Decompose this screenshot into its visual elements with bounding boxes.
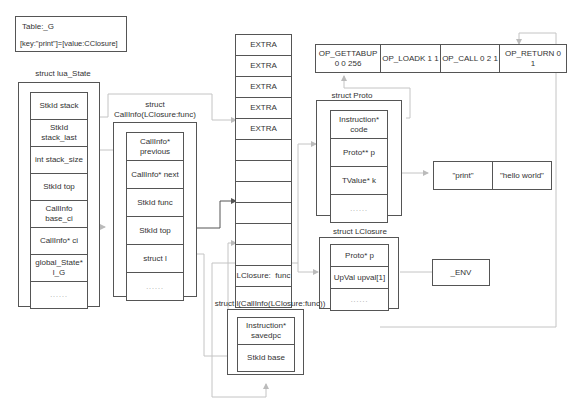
field-top: StkId top	[30, 173, 88, 201]
table-g-box: Table:_G [key:"print"]=[value:CClosure]	[15, 16, 127, 52]
field-func: StkId func	[126, 188, 184, 217]
proto-struct: Instruction* code Proto** p TValue* k ..…	[316, 100, 402, 216]
const-print: "print"	[433, 161, 493, 190]
field-ci: CallInfo* ci	[30, 227, 88, 255]
field-lclosure-more: ......	[330, 288, 389, 311]
field-code: Instruction* code	[330, 110, 388, 139]
table-g-entry: [key:"print"]=[value:CClosure]	[20, 39, 118, 48]
field-l-g: global_State* l_G	[30, 254, 88, 282]
field-base-ci: CallInfo base_ci	[30, 200, 88, 228]
stack-slot: EXTRA	[235, 97, 292, 119]
field-stack: StkId stack	[30, 92, 88, 120]
stack-slot	[235, 244, 292, 266]
field-savedpc: Instruction* savedpc	[237, 317, 295, 345]
lua-state-title: struct lua_State	[18, 69, 108, 78]
instruction-array: OP_GETTABUP 0 0 256 OP_LOADK 1 1 OP_CALL…	[315, 44, 567, 73]
lclosure-struct: Proto* p UpVal upval[1] ......	[319, 237, 399, 309]
constants-array: "print" "hello world"	[433, 161, 552, 190]
lua-state-fields: StkId stack StkId stack_last int stack_s…	[30, 92, 88, 309]
stack-slot: EXTRA	[235, 55, 292, 77]
field-lclosure-p: Proto* p	[330, 244, 389, 267]
stack-slot	[235, 139, 292, 161]
field-callinfo-more: ......	[126, 272, 184, 301]
table-g-title: Table:_G	[22, 22, 54, 31]
env-box: _ENV	[432, 259, 490, 286]
stack-slot	[235, 181, 292, 203]
lua-state-struct: StkId stack StkId stack_last int stack_s…	[18, 82, 100, 307]
field-base: StkId base	[237, 344, 295, 372]
callinfo-l-title: struct l(CallInfo(LClosure:func))	[210, 299, 330, 308]
field-previous: CallInfo* previous	[126, 132, 184, 161]
field-callinfo-top: StkId top	[126, 216, 184, 245]
callinfo-struct: CallInfo* previous CallInfo* next StkId …	[113, 122, 197, 297]
callinfo-title-line1: struct	[110, 100, 200, 109]
field-struct-l: struct l	[126, 244, 184, 273]
field-proto-more: ......	[330, 194, 388, 223]
stack-slot: EXTRA	[235, 34, 292, 56]
field-k: TValue* k	[330, 166, 388, 195]
stack-slot	[235, 160, 292, 182]
callinfo-l-struct: Instruction* savedpc StkId base	[227, 309, 304, 375]
field-proto-p: Proto** p	[330, 138, 388, 167]
instr-call: OP_CALL 0 2 1	[440, 44, 500, 73]
stack-slot	[235, 202, 292, 224]
field-stack-size: int stack_size	[30, 146, 88, 174]
lclosure-fields: Proto* p UpVal upval[1] ......	[330, 244, 389, 311]
field-more: ......	[30, 281, 88, 309]
callinfo-fields: CallInfo* previous CallInfo* next StkId …	[126, 132, 184, 301]
lua-stack: EXTRA EXTRA EXTRA EXTRA EXTRA LClosure: …	[235, 34, 292, 308]
callinfo-title-line2: CallInfo(LClosure:func)	[110, 110, 200, 119]
stack-slot: EXTRA	[235, 76, 292, 98]
field-stack-last: StkId stack_last	[30, 119, 88, 147]
callinfo-l-fields: Instruction* savedpc StkId base	[237, 317, 295, 372]
field-upval: UpVal upval[1]	[330, 266, 389, 289]
const-hello-world: "hello world"	[492, 161, 552, 190]
lclosure-title: struct LClosure	[320, 227, 400, 236]
field-next: CallInfo* next	[126, 160, 184, 189]
stack-slot	[235, 223, 292, 245]
proto-fields: Instruction* code Proto** p TValue* k ..…	[330, 110, 388, 223]
instr-loadk: OP_LOADK 1 1	[380, 44, 441, 73]
proto-title: struct Proto	[312, 91, 392, 100]
instr-gettabup: OP_GETTABUP 0 0 256	[315, 44, 381, 73]
stack-slot: EXTRA	[235, 118, 292, 140]
instr-return: OP_RETURN 0 1	[499, 44, 567, 73]
stack-slot-lclosure-func: LClosure: func	[235, 265, 292, 287]
